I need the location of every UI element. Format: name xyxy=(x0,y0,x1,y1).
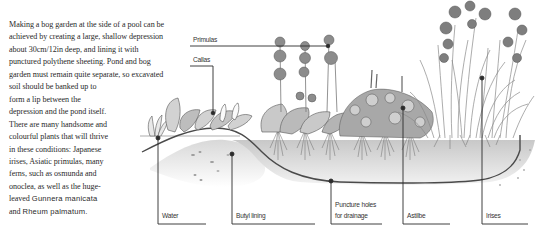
water-plant xyxy=(148,115,168,136)
label-irises: Irises xyxy=(486,211,501,220)
label-astilbe: Astilbe xyxy=(407,211,425,220)
bog-garden-cross-section-illustration xyxy=(0,0,540,236)
bog-soil xyxy=(232,140,535,186)
callas-foliage xyxy=(166,98,252,132)
label-puncture-holes: Puncture holes xyxy=(335,200,376,209)
label-for-drainage: for drainage xyxy=(335,211,368,220)
astilbe-foliage xyxy=(339,70,433,138)
label-primulas: Primulas xyxy=(193,35,217,44)
label-callas: Callas xyxy=(193,55,210,64)
label-butyl-lining: Butyl lining xyxy=(236,211,266,220)
label-water: Water xyxy=(162,211,178,220)
primula-foliage xyxy=(261,104,352,134)
